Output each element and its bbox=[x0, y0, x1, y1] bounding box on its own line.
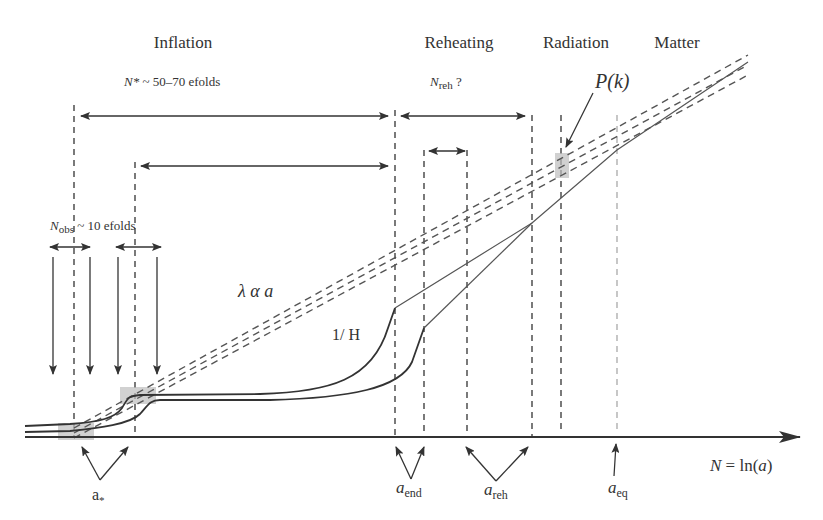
a-reh-subscript: reh bbox=[493, 488, 508, 502]
a-end-symbol: a bbox=[396, 478, 405, 497]
hubble-radius-label: 1/ H bbox=[332, 326, 360, 343]
x-axis-label-a: a bbox=[758, 456, 767, 475]
hubble-radius-tail-2 bbox=[424, 223, 532, 328]
a-reh-symbol: a bbox=[484, 480, 493, 499]
n-reh-question: ? bbox=[453, 74, 462, 89]
n-reh-subscript: reh bbox=[439, 79, 454, 91]
x-axis-label-close: ) bbox=[767, 456, 773, 475]
power-spectrum-arrow bbox=[566, 93, 593, 147]
cosmology-horizon-diagram: Inflation Reheating Radiation Matter N* … bbox=[0, 0, 823, 520]
a-end-arrow-left bbox=[396, 447, 411, 479]
a-eq-subscript: eq bbox=[617, 486, 628, 500]
phase-label-inflation: Inflation bbox=[154, 33, 213, 52]
x-axis-label: N = ln(a) bbox=[709, 456, 773, 475]
highlight-box-pk bbox=[555, 153, 569, 178]
phase-label-radiation: Radiation bbox=[543, 33, 610, 52]
a-reh-arrow-left bbox=[466, 447, 496, 481]
n-star-symbol: N* bbox=[123, 74, 140, 89]
a-reh-label: areh bbox=[484, 480, 508, 502]
a-star-subscript: * bbox=[99, 494, 105, 506]
wavelength-label: λ α a bbox=[237, 281, 273, 301]
power-spectrum-label: P(k) bbox=[594, 70, 630, 93]
a-star-arrow-right bbox=[100, 447, 128, 480]
hubble-radius-tail-1 bbox=[395, 62, 748, 308]
hubble-radius-curve-2 bbox=[25, 328, 424, 432]
n-star-efolds-label: N* ~ 50–70 efolds bbox=[123, 74, 220, 89]
a-eq-symbol: a bbox=[608, 478, 617, 497]
n-star-range: ~ 50–70 efolds bbox=[139, 74, 220, 89]
a-reh-arrow-right bbox=[496, 447, 528, 481]
n-reh-label: Nreh ? bbox=[429, 74, 462, 91]
a-star-arrow-left bbox=[82, 447, 100, 480]
wavelength-line-1 bbox=[74, 55, 748, 428]
a-end-arrow-right bbox=[411, 447, 424, 479]
a-eq-arrow bbox=[614, 444, 616, 476]
phase-label-matter: Matter bbox=[654, 33, 700, 52]
x-axis-label-eq: = ln( bbox=[721, 456, 758, 475]
a-eq-label: aeq bbox=[608, 478, 628, 500]
wavelength-line-2 bbox=[74, 65, 748, 433]
n-obs-range: ~ 10 efolds bbox=[74, 218, 136, 233]
a-star-symbol: a bbox=[92, 486, 99, 503]
a-end-subscript: end bbox=[405, 486, 422, 500]
n-obs-subscript: obs bbox=[59, 223, 74, 235]
phase-label-reheating: Reheating bbox=[425, 33, 494, 52]
n-obs-label: Nobs ~ 10 efolds bbox=[49, 218, 136, 235]
a-end-label: aend bbox=[396, 478, 422, 500]
a-star-label: a* bbox=[92, 486, 105, 506]
